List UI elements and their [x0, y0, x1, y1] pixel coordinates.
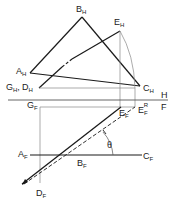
- fold-label-f: F: [161, 102, 167, 112]
- label-efr: EFR: [138, 102, 149, 116]
- label-df: DF: [36, 188, 47, 199]
- edge-ah-ch: [30, 73, 140, 86]
- rotation-arc: [120, 31, 135, 88]
- label-af: AF: [18, 149, 28, 160]
- line-dh-eh-visible-lower: [39, 67, 62, 88]
- fold-label-h: H: [161, 90, 168, 100]
- true-length-df-efr: [24, 107, 135, 184]
- orthographic-projection-diagram: BH EH AH GH,DH CH H F GF EF EFR θ AF BF …: [0, 0, 173, 201]
- edge-ah-bh: [30, 17, 82, 73]
- label-eh: EH: [114, 17, 124, 28]
- label-gh-dh: GH,DH: [6, 82, 33, 93]
- label-bf: BF: [77, 158, 87, 169]
- line-dh-eh-hidden: [62, 59, 72, 67]
- label-ch: CH: [143, 83, 154, 94]
- label-ef: EF: [119, 108, 129, 119]
- label-cf: CF: [143, 151, 154, 162]
- label-theta: θ: [107, 140, 112, 150]
- edge-bh-ch: [82, 17, 140, 86]
- label-bh: BH: [76, 4, 86, 15]
- label-ah: AH: [16, 66, 26, 77]
- line-dh-eh-visible-upper: [72, 31, 120, 59]
- label-gf: GF: [27, 100, 38, 111]
